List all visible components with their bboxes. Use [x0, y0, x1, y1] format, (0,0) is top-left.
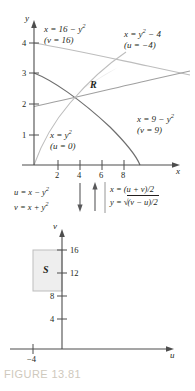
curve-label-y2-minus-4: x = y2 − 4 (u = −4): [124, 25, 161, 51]
inverse-eq-y-pre: y =: [110, 197, 124, 207]
region-S-label: S: [43, 264, 49, 275]
curve-label-y2: x = y2 (u = 0): [50, 126, 76, 152]
xy-x-tick-label-2: 2: [55, 170, 59, 180]
inverse-eq-x: x = (u + v)/2: [110, 184, 154, 194]
uv-v-tick-label-12: 12: [70, 268, 79, 278]
uv-plane-plot: [0, 218, 195, 368]
uv-v-tick-label-8: 8: [50, 291, 54, 301]
inverse-transform-equations: x = (u + v)/2 y = √(v − u)/2: [110, 183, 159, 208]
transform-arrows-and-divider: [75, 181, 115, 215]
curve-label-16-eq: x = 16 − y: [44, 24, 82, 34]
forward-eq-v: v = x + y: [14, 202, 45, 212]
xy-x-axis-label: x: [176, 166, 180, 176]
curve-label-16-minus-y2: x = 16 − y2 (v = 16): [44, 20, 85, 46]
figure-13-81: y x 4 3 2 1 2 4 6 8 R x = 16 − y2 (v = 1…: [0, 0, 195, 391]
inverse-eq-y-radicand: (v − u)/2: [127, 195, 158, 208]
xy-x-tick-label-8: 8: [121, 170, 125, 180]
down-arrow-head: [77, 205, 82, 213]
figure-caption: FIGURE 13.81: [4, 368, 81, 380]
curve-label-16-param: (v = 16): [44, 35, 74, 45]
xy-plane-plot: [0, 0, 195, 178]
xy-x-tick-label-6: 6: [99, 170, 103, 180]
xy-y-tick-label-3: 3: [22, 68, 26, 78]
curve-x-y2: [34, 52, 126, 165]
xy-x-tick-label-4: 4: [77, 170, 81, 180]
curve-label-y2m4-tail: − 4: [146, 29, 161, 39]
y-axis-arrow: [31, 20, 37, 28]
uv-v-axis-label: v: [53, 221, 57, 231]
curve-label-y2m4-param: (u = −4): [124, 40, 156, 50]
uv-u-axis-label: u: [170, 350, 175, 360]
uv-v-tick-label-4: 4: [50, 314, 54, 324]
curve-label-y2m4-eq: x = y: [124, 29, 143, 39]
curve-label-9-minus-y2: x = 9 − y2 (v = 9): [137, 110, 174, 136]
forward-transform-equations: u = x − y2 v = x + y2: [14, 183, 49, 213]
region-R-label: R: [90, 79, 97, 90]
xy-y-axis-label: y: [25, 13, 29, 23]
curve-x-y2-minus-4: [34, 71, 190, 107]
curve-label-9-param: (v = 9): [137, 125, 162, 135]
uv-u-tick-label-minus-4: −4: [27, 354, 36, 364]
v-axis-arrow: [59, 229, 65, 237]
curve-label-9-eq: x = 9 − y: [137, 114, 171, 124]
forward-eq-u: u = x − y: [14, 187, 46, 197]
uv-v-tick-label-16: 16: [70, 245, 79, 255]
up-arrow-head: [92, 182, 97, 190]
curve-label-y2-eq: x = y: [50, 130, 69, 140]
xy-y-tick-label-2: 2: [22, 99, 26, 109]
xy-y-tick-label-4: 4: [22, 38, 26, 48]
curve-label-y2-param: (u = 0): [50, 141, 76, 151]
xy-y-tick-label-1: 1: [22, 130, 26, 140]
